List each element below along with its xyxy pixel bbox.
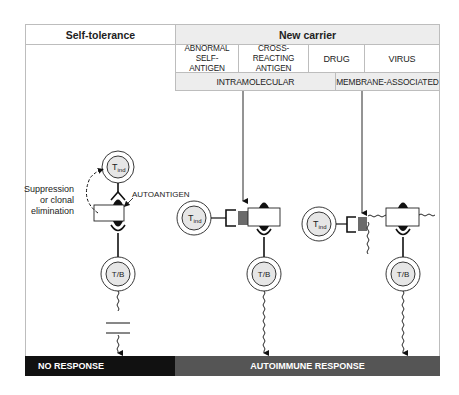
tind-cell-left: Tind (102, 151, 134, 183)
no-response-bar: NO RESPONSE (25, 356, 175, 376)
mechanism-diagram: Tind AUTOANTIGEN Suppression or clonal e… (0, 0, 459, 395)
intramolecular-panel: Tind T/B (177, 91, 281, 353)
autoantigen-label: AUTOANTIGEN (132, 190, 190, 199)
carrier-block (358, 217, 367, 231)
tind-cell-right: Tind (302, 207, 336, 241)
suppression-label: Suppression (24, 184, 74, 194)
suppression-label: or clonal (40, 195, 74, 205)
tb-cell-right: T/B (386, 257, 420, 291)
tind-cell-middle: Tind (177, 201, 211, 235)
carrier-block (238, 211, 248, 225)
tb-label: T/B (258, 270, 270, 279)
autoantigen-block (386, 208, 419, 226)
tb-label: T/B (397, 270, 409, 279)
suppression-label: elimination (31, 206, 74, 216)
membrane-associated-panel: Tind T/B (302, 91, 435, 353)
autoantigen-block (248, 208, 280, 226)
autoimmune-response-label: AUTOIMMUNE RESPONSE (250, 361, 364, 371)
no-response-label: NO RESPONSE (38, 361, 104, 371)
tb-cell-middle: T/B (247, 257, 281, 291)
autoimmune-response-bar: AUTOIMMUNE RESPONSE (175, 356, 440, 376)
autoantigen-block (94, 205, 124, 221)
tb-cell-left: T/B (101, 257, 135, 291)
tb-label: T/B (112, 270, 124, 279)
self-tolerance-panel: Tind AUTOANTIGEN Suppression or clonal e… (24, 151, 190, 353)
